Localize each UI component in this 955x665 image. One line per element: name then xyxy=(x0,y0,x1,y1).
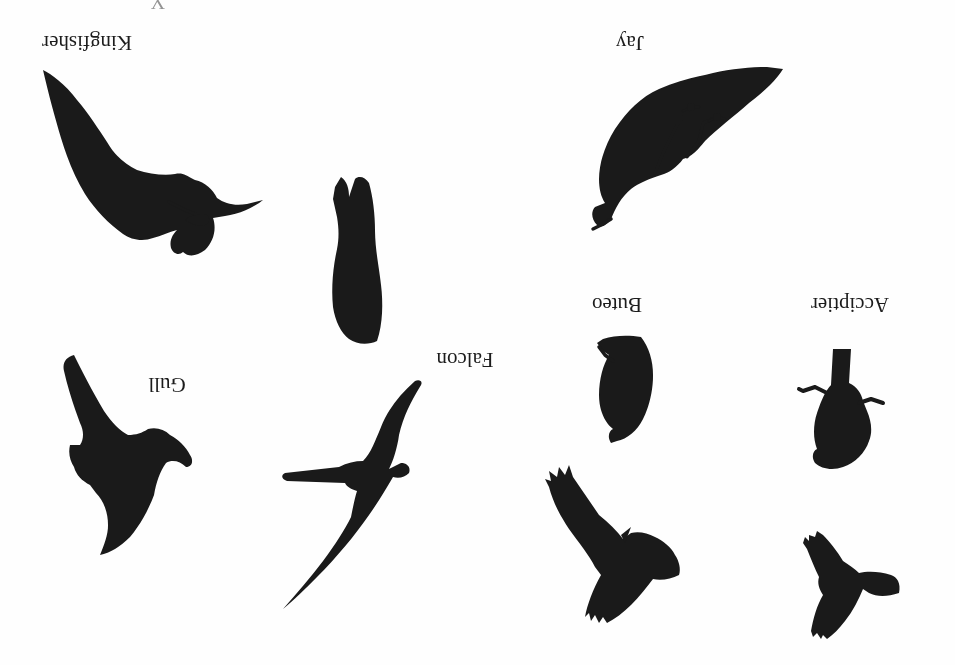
falcon-flying-silhouette xyxy=(279,375,427,613)
label-jay: Jay xyxy=(616,32,644,53)
falcon-perched-icon xyxy=(329,172,383,347)
kingfisher-perched-silhouette xyxy=(35,60,265,260)
acciptier-perched-silhouette xyxy=(795,345,887,473)
label-falcon: Falcon xyxy=(436,349,493,370)
jay-perched-icon xyxy=(587,57,787,237)
label-acciptier: Acciptier xyxy=(811,294,889,315)
label-buteo: Buteo xyxy=(592,294,642,315)
falcon-perched-silhouette xyxy=(329,172,383,347)
buteo-flying-silhouette xyxy=(543,459,683,627)
acciptier-flying-silhouette xyxy=(791,527,903,641)
clipped-heading-text: Y xyxy=(151,0,165,13)
falcon-flying-icon xyxy=(279,375,427,613)
buteo-flying-icon xyxy=(543,459,683,627)
acciptier-flying-icon xyxy=(791,527,903,641)
kingfisher-perched-icon xyxy=(35,60,265,260)
gull-flying-icon xyxy=(60,351,200,557)
gull-flying-silhouette xyxy=(60,351,200,557)
bird-silhouette-chart: Kingfisher Jay Acciptier xyxy=(0,0,955,665)
label-kingfisher: Kingfisher xyxy=(42,32,132,53)
buteo-perched-icon xyxy=(593,335,655,447)
acciptier-perched-icon xyxy=(795,345,887,473)
jay-perched-silhouette xyxy=(587,57,787,237)
buteo-perched-silhouette xyxy=(593,335,655,447)
